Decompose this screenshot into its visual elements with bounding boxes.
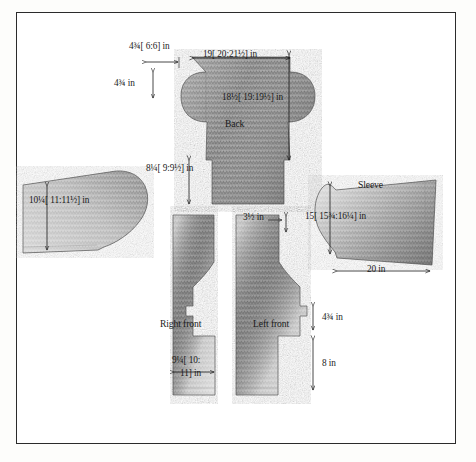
dim-sleeve-right-height: 15[ 15¾:16¼] in [305,212,366,222]
piece-back [181,57,315,204]
piece-sleeve-left [23,171,148,253]
dim-back-width: 19[ 20:21½] in [203,50,257,60]
schematic-canvas [0,0,476,462]
dim-back-length: 18½[ 19:19½] in [222,93,283,103]
dim-front-lower: 8 in [322,359,336,369]
label-left-front: Left front [253,319,289,329]
dim-armhole-depth: 4¾ in [114,79,135,89]
dim-shoulder-width: 4¾[ 6:6] in [129,42,169,52]
dim-front-shoulder: 4¾ in [322,313,343,323]
piece-sleeve-right [315,180,436,265]
dim-sleeve-length: 20 in [367,265,385,275]
schematic-page: 4¾[ 6:6] in 4¾ in 19[ 20:21½] in 18½[ 19… [0,0,476,462]
dim-sleeve-left-height: 10¼[ 11:11½] in [29,196,89,206]
label-sleeve: Sleeve [358,180,383,190]
label-back: Back [225,119,244,129]
dim-front-neck: 3½ in [243,213,264,223]
piece-left-front [236,215,307,395]
dim-front-width-line2: 11] in [180,369,201,379]
dim-back-hem: 8¼[ 9:9½] in [146,164,193,174]
dim-front-width-line1: 9¼[ 10: [172,356,200,366]
label-right-front: Right front [160,319,201,329]
